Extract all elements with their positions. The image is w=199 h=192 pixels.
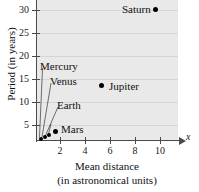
y-tick-label-25: 25	[19, 28, 29, 38]
data-label-venus: Venus	[50, 76, 77, 87]
data-point-saturn	[153, 7, 158, 12]
x-tick-label-4: 4	[83, 146, 88, 156]
y-tick-30	[32, 10, 40, 11]
x-tick-4	[85, 137, 86, 144]
y-tick-label-15: 15	[19, 74, 29, 84]
x-axis-arrow-icon	[179, 137, 186, 145]
y-tick-20	[32, 56, 40, 57]
x-axis-title: Mean distance (in astronomical units)	[36, 160, 178, 188]
data-label-mercury: Mercury	[40, 61, 78, 72]
data-label-earth: Earth	[57, 100, 81, 111]
x-axis-title-line1: Mean distance	[36, 160, 178, 174]
x-tick-label-8: 8	[133, 146, 138, 156]
y-tick-label-5: 5	[24, 120, 29, 130]
x-tick-label-2: 2	[58, 146, 63, 156]
y-axis-line	[36, 0, 37, 142]
y-tick-5	[32, 125, 40, 126]
data-point-earth	[47, 133, 51, 137]
y-tick-10	[32, 102, 40, 103]
y-tick-label-30: 30	[19, 5, 29, 15]
x-tick-6	[110, 137, 111, 144]
data-point-jupiter	[99, 83, 104, 88]
y-tick-label-10: 10	[19, 97, 29, 107]
scatter-plot-figure: x 30 25 20 15 10 5 2 4 6 8 10 Mercury Ve…	[0, 0, 199, 192]
gridline-25	[36, 33, 178, 34]
x-tick-10	[160, 137, 161, 144]
x-tick-2	[60, 137, 61, 144]
data-label-saturn: Saturn	[122, 4, 151, 15]
data-label-jupiter: Jupiter	[109, 81, 139, 92]
y-tick-15	[32, 79, 40, 80]
y-axis-title: Period (in years)	[5, 4, 17, 124]
data-label-mars: Mars	[61, 124, 84, 135]
gridline-20	[36, 56, 178, 57]
x-axis-symbol: x	[186, 131, 190, 142]
gridline-5	[36, 125, 178, 126]
x-tick-label-10: 10	[155, 146, 165, 156]
x-tick-label-6: 6	[108, 146, 113, 156]
data-point-mars	[53, 129, 58, 134]
y-tick-25	[32, 33, 40, 34]
x-tick-8	[135, 137, 136, 144]
y-tick-label-20: 20	[19, 51, 29, 61]
x-axis-title-line2: (in astronomical units)	[36, 174, 178, 188]
